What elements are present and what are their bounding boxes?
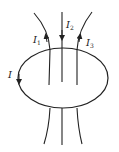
current-loop-diagram: I1 I2 I3 I xyxy=(0,0,119,152)
current-loop xyxy=(18,48,108,108)
current-line-1-lower xyxy=(44,108,50,144)
label-i1: I1 xyxy=(32,34,41,46)
current-1-arrow-icon xyxy=(46,36,47,42)
current-line-3-lower xyxy=(77,108,82,144)
label-loop-current: I xyxy=(7,69,13,80)
label-i2: I2 xyxy=(65,19,74,31)
label-i3: I3 xyxy=(85,37,94,49)
current-line-1 xyxy=(34,13,50,85)
